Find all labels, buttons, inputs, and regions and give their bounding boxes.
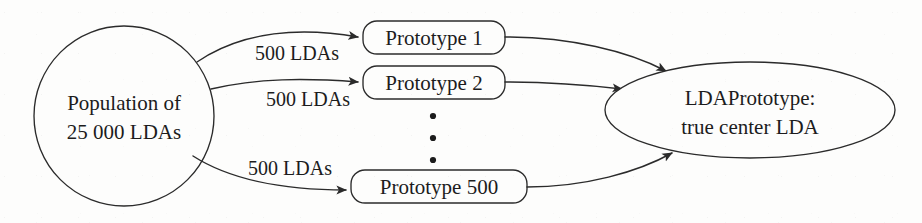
edge-aggregate-500-path bbox=[527, 153, 672, 187]
edge-label-sample-1: 500 LDAs bbox=[255, 42, 339, 64]
node-prototype-500: Prototype 500 bbox=[351, 170, 527, 203]
result-label-line2: true center LDA bbox=[681, 115, 819, 139]
prototype-500-label: Prototype 500 bbox=[380, 175, 498, 199]
edge-aggregate-500 bbox=[527, 153, 672, 187]
edge-aggregate-2-path bbox=[505, 82, 622, 89]
node-prototype-2: Prototype 2 bbox=[363, 66, 505, 99]
result-label-line1: LDAPrototype: bbox=[685, 86, 816, 110]
result-ellipse-outline bbox=[605, 62, 895, 158]
population-label-line2: 25 000 LDAs bbox=[67, 120, 181, 144]
ellipsis-dot-1 bbox=[430, 113, 436, 119]
population-label-line1: Population of bbox=[67, 91, 181, 115]
node-prototype-1: Prototype 1 bbox=[363, 21, 505, 54]
edge-aggregate-2 bbox=[505, 82, 622, 89]
ellipsis-dot-3 bbox=[430, 157, 436, 163]
population-circle-outline bbox=[34, 26, 214, 206]
edge-aggregate-1-path bbox=[505, 37, 666, 71]
diagram-canvas-root: Population of 25 000 LDAs 500 LDAs 500 L… bbox=[0, 0, 922, 223]
diagram-svg: Population of 25 000 LDAs 500 LDAs 500 L… bbox=[0, 0, 922, 223]
ellipsis-dot-2 bbox=[430, 135, 436, 141]
node-ldaprototype-result: LDAPrototype: true center LDA bbox=[605, 62, 895, 158]
edge-label-sample-2: 500 LDAs bbox=[266, 88, 350, 110]
vertical-ellipsis bbox=[430, 113, 436, 163]
prototype-1-label: Prototype 1 bbox=[385, 26, 482, 50]
edge-aggregate-1 bbox=[505, 37, 666, 71]
node-population: Population of 25 000 LDAs bbox=[34, 26, 214, 206]
prototype-2-label: Prototype 2 bbox=[385, 71, 482, 95]
edge-label-sample-3: 500 LDAs bbox=[248, 157, 332, 179]
